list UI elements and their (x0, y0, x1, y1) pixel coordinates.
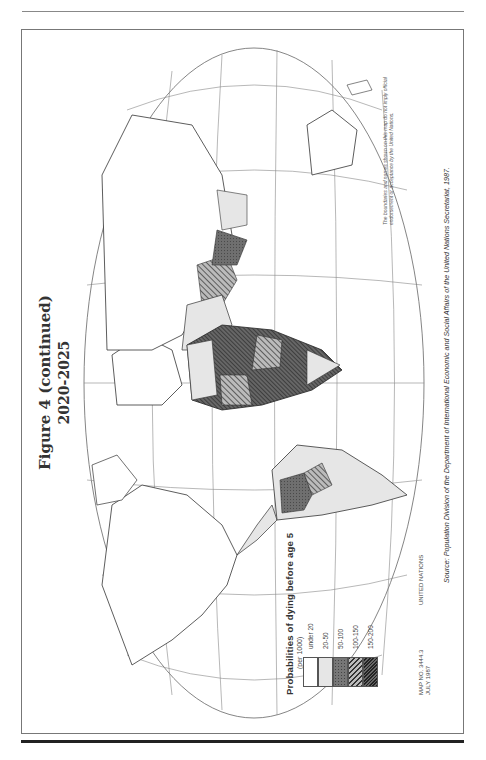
legend-item: 50-100 (333, 515, 348, 695)
north-america (102, 485, 237, 665)
figure-frame: Figure 4 (continued) 2020-2025 (21, 29, 464, 734)
legend-item: under 20 (303, 515, 318, 695)
legend-swatch (318, 657, 333, 687)
legend-swatch (363, 657, 378, 687)
rotated-figure: Figure 4 (continued) 2020-2025 (22, 30, 465, 735)
map-number: MAP NO. 3444.3 JULY 1987 (418, 650, 432, 695)
legend-swatch (333, 657, 348, 687)
top-rule (22, 11, 464, 12)
legend-title: Probabilities of dying before age 5 (284, 515, 295, 695)
map-legend: Probabilities of dying before age 5 (per… (284, 515, 378, 695)
source-note: Source: Population Division of the Depar… (442, 75, 451, 675)
legend-swatch (303, 657, 318, 687)
legend-swatch (348, 657, 363, 687)
australia (307, 110, 357, 175)
legend-unit: (per 1000) (296, 515, 303, 669)
world-map (22, 30, 465, 735)
bottom-rule (21, 740, 464, 743)
legend-item: 100-150 (348, 515, 363, 695)
legend-item: 150-200 (363, 515, 378, 695)
legend-item: 20-50 (318, 515, 333, 695)
publisher: UNITED NATIONS (418, 555, 424, 605)
disclaimer: The boundaries and names shown on this m… (382, 75, 394, 225)
